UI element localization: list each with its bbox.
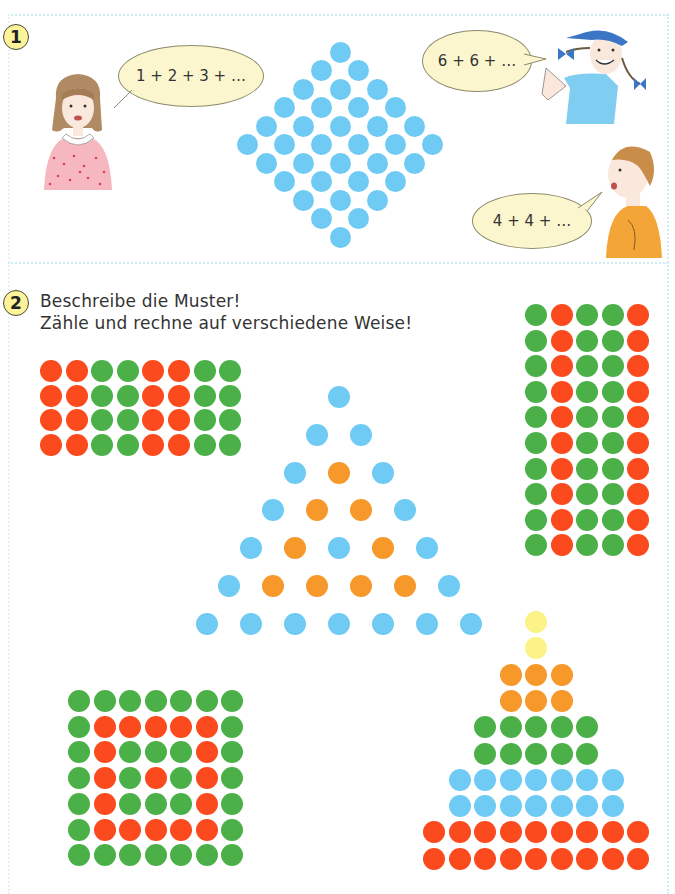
dot xyxy=(293,153,314,174)
dot xyxy=(525,432,547,454)
dot xyxy=(311,60,332,81)
dot xyxy=(40,360,62,382)
dot xyxy=(576,432,598,454)
dot xyxy=(602,330,624,352)
dot xyxy=(627,432,649,454)
dot xyxy=(68,819,90,841)
dot xyxy=(576,534,598,556)
dot xyxy=(576,743,598,765)
dot xyxy=(40,434,62,456)
dot xyxy=(423,821,445,843)
dot xyxy=(525,509,547,531)
dot xyxy=(385,171,406,192)
dot xyxy=(330,227,351,248)
dot xyxy=(500,769,522,791)
dot xyxy=(576,483,598,505)
dot xyxy=(525,330,547,352)
dot xyxy=(145,844,167,866)
dot xyxy=(627,330,649,352)
instruction-text: Beschreibe die Muster! Zähle und rechne … xyxy=(40,290,412,334)
dot xyxy=(196,793,218,815)
dot xyxy=(551,355,573,377)
dot xyxy=(348,60,369,81)
dot xyxy=(500,690,522,712)
dot xyxy=(525,381,547,403)
dot xyxy=(194,385,216,407)
dot xyxy=(500,664,522,686)
dot xyxy=(602,795,624,817)
dot xyxy=(170,741,192,763)
dot xyxy=(500,743,522,765)
cap-girl-illustration xyxy=(536,28,646,124)
dot xyxy=(293,79,314,100)
dot xyxy=(500,795,522,817)
dot xyxy=(168,434,190,456)
dot xyxy=(551,330,573,352)
dot xyxy=(117,360,139,382)
dot xyxy=(119,819,141,841)
dot xyxy=(284,462,306,484)
dot xyxy=(221,767,243,789)
dot xyxy=(602,304,624,326)
page-border-right xyxy=(667,14,669,894)
dot xyxy=(311,97,332,118)
dot xyxy=(66,409,88,431)
dot xyxy=(551,848,573,870)
dot xyxy=(367,116,388,137)
dot xyxy=(196,844,218,866)
dot xyxy=(525,795,547,817)
dot xyxy=(306,499,328,521)
exercise-number-badge: 1 xyxy=(3,24,29,50)
dot xyxy=(68,741,90,763)
page-border-top xyxy=(8,14,668,16)
dot xyxy=(500,848,522,870)
dot xyxy=(293,116,314,137)
dot xyxy=(474,769,496,791)
dot xyxy=(474,848,496,870)
dot xyxy=(68,716,90,738)
dot xyxy=(274,134,295,155)
exercise-number: 2 xyxy=(10,293,22,313)
dot xyxy=(219,385,241,407)
dot xyxy=(145,741,167,763)
dot xyxy=(348,134,369,155)
dot xyxy=(311,134,332,155)
dot xyxy=(68,844,90,866)
boy-illustration xyxy=(598,140,664,258)
dot xyxy=(142,434,164,456)
dot xyxy=(170,716,192,738)
dot xyxy=(256,116,277,137)
dot xyxy=(525,458,547,480)
dot xyxy=(551,795,573,817)
dot xyxy=(66,360,88,382)
dot xyxy=(525,355,547,377)
dot xyxy=(328,537,350,559)
dot xyxy=(168,409,190,431)
dot xyxy=(385,97,406,118)
dot xyxy=(311,208,332,229)
dot xyxy=(551,821,573,843)
dot xyxy=(117,434,139,456)
dot xyxy=(221,741,243,763)
speech-bubble-cap-girl: 6 + 6 + … xyxy=(422,30,532,92)
dot xyxy=(627,534,649,556)
dot xyxy=(385,134,406,155)
dot xyxy=(40,409,62,431)
dot xyxy=(240,613,262,635)
dot xyxy=(194,434,216,456)
dot xyxy=(284,537,306,559)
dot xyxy=(449,848,471,870)
dot xyxy=(602,483,624,505)
dot xyxy=(500,716,522,738)
dot xyxy=(219,409,241,431)
dot xyxy=(66,434,88,456)
dot xyxy=(525,716,547,738)
dot xyxy=(627,406,649,428)
dot xyxy=(237,134,258,155)
dot xyxy=(416,613,438,635)
dot xyxy=(262,575,284,597)
dot xyxy=(525,637,547,659)
dot xyxy=(142,385,164,407)
dot xyxy=(194,409,216,431)
dot xyxy=(328,462,350,484)
